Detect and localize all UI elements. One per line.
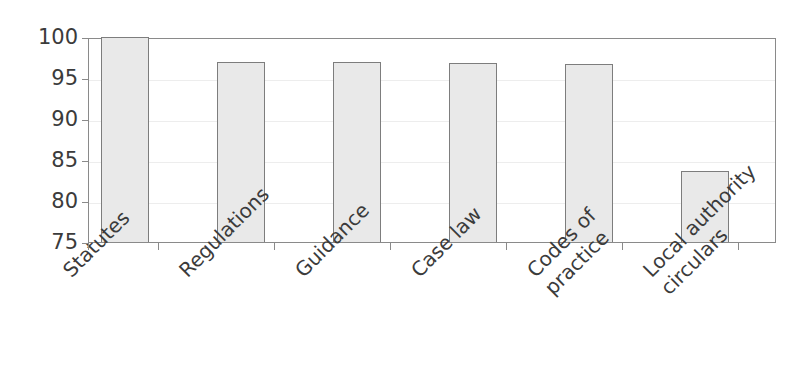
x-axis-tick-mark [390,243,391,250]
x-axis-category-labels: StatutesRegulationsGuidanceCase lawCodes… [0,0,793,387]
x-axis-tick-mark [622,243,623,250]
x-axis-category-label-line: Guidance [290,198,375,283]
x-axis-tick-mark [274,243,275,250]
x-axis-category-label: Regulations [174,182,275,283]
x-axis-category-label: Guidance [290,198,375,283]
x-axis-category-label: Local authoritycirculars [638,159,779,300]
y-axis-tick-mark [82,38,89,39]
y-axis-tick-mark [82,79,89,80]
x-axis-origin-tick-mark [88,243,89,250]
x-axis-category-label-line: Regulations [174,182,275,283]
bar-chart: 1009590858075 StatutesRegulationsGuidanc… [0,0,793,387]
x-axis-tick-mark [158,243,159,250]
x-axis-category-label: Statutes [58,206,135,283]
x-axis-tick-mark [506,243,507,250]
x-axis-category-label: Case law [406,202,487,283]
x-axis-category-label-line: Case law [406,202,487,283]
y-axis-tick-mark [82,120,89,121]
y-axis-tick-mark [82,202,89,203]
x-axis-tick-mark [738,243,739,250]
x-axis-category-label-line: Statutes [58,206,135,283]
x-axis-category-label: Codes ofpractice [522,203,619,300]
y-axis-tick-mark [82,161,89,162]
